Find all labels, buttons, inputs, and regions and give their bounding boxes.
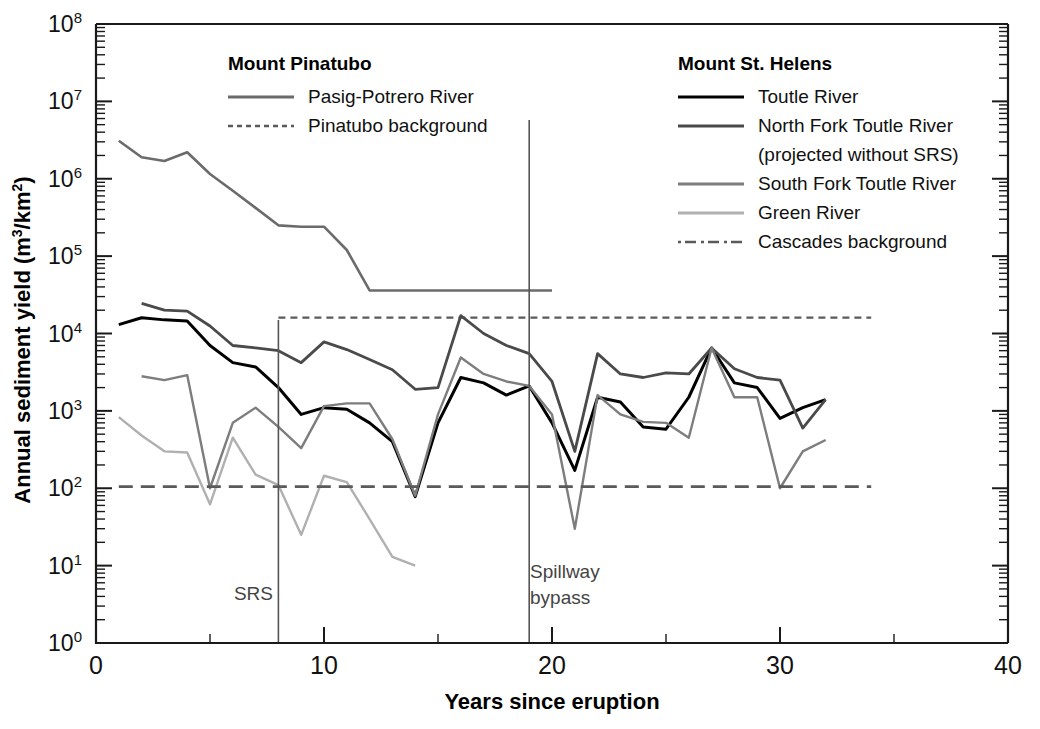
x-tick-label: 30 bbox=[766, 651, 794, 679]
legend-label: Cascades background bbox=[758, 231, 947, 252]
y-tick-label: 104 bbox=[48, 319, 82, 347]
y-tick-label: 106 bbox=[48, 164, 82, 192]
legend-heading: Mount Pinatubo bbox=[228, 53, 372, 74]
sediment-yield-chart: 100101102103104105106107108010203040 Ann… bbox=[0, 0, 1040, 729]
series-line bbox=[119, 141, 552, 291]
legend-label: Pasig-Potrero River bbox=[308, 86, 474, 107]
series-line bbox=[119, 417, 415, 565]
event-lines-layer bbox=[278, 120, 529, 643]
legend-label: Pinatubo background bbox=[308, 115, 488, 136]
legend-label: North Fork Toutle River bbox=[758, 115, 954, 136]
y-tick-label: 105 bbox=[48, 241, 82, 269]
annotation-srs: SRS bbox=[234, 583, 273, 604]
y-tick-label: 101 bbox=[48, 551, 82, 579]
y-tick-label: 100 bbox=[48, 628, 82, 656]
y-tick-label: 108 bbox=[48, 9, 82, 37]
x-tick-label: 0 bbox=[89, 651, 103, 679]
legend: Mount PinatuboPasig-Potrero RiverPinatub… bbox=[228, 53, 959, 252]
x-tick-label: 20 bbox=[538, 651, 566, 679]
figure-root: 100101102103104105106107108010203040 Ann… bbox=[0, 0, 1040, 729]
legend-heading: Mount St. Helens bbox=[678, 53, 832, 74]
y-tick-label: 107 bbox=[48, 86, 82, 114]
annotation-spillway-line2: bypass bbox=[530, 587, 590, 608]
y-tick-label: 103 bbox=[48, 396, 82, 424]
x-tick-label: 10 bbox=[310, 651, 338, 679]
legend-label: Toutle River bbox=[758, 86, 859, 107]
legend-label-continued: (projected without SRS) bbox=[758, 144, 959, 165]
annotation-spillway-line1: Spillway bbox=[530, 561, 600, 582]
x-axis-title: Years since eruption bbox=[444, 689, 659, 714]
x-tick-label: 40 bbox=[994, 651, 1022, 679]
legend-label: South Fork Toutle River bbox=[758, 173, 957, 194]
series-line bbox=[142, 303, 826, 451]
legend-label: Green River bbox=[758, 202, 861, 223]
y-tick-label: 102 bbox=[48, 473, 82, 501]
y-axis-title: Annual sediment yield (m3/km2) bbox=[9, 176, 35, 503]
series-line bbox=[119, 318, 826, 497]
series-line bbox=[142, 348, 826, 529]
